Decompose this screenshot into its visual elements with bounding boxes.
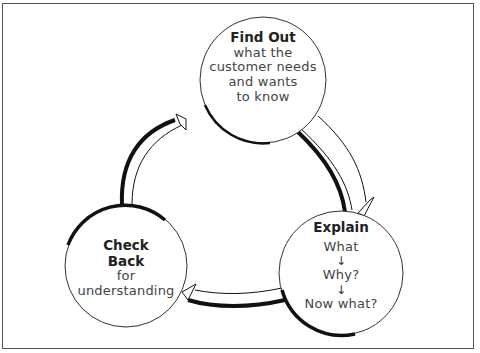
node-text-line: to know [200, 90, 326, 105]
arrow-down-icon: ↓ [285, 283, 397, 297]
arrow-explain-to-checkback [182, 284, 285, 306]
node-title: Back [70, 254, 182, 270]
node-check-back: Check Back for understanding [70, 238, 182, 299]
node-find-out: Find Out what the customer needs and wan… [200, 30, 326, 105]
node-text-line: understanding [70, 284, 182, 299]
node-title: Find Out [200, 30, 326, 46]
node-text-line: for [70, 269, 182, 284]
node-text-line: what the [200, 46, 326, 61]
step-why: Why? [285, 268, 397, 283]
node-text-line: customer needs [200, 60, 326, 75]
node-title: Check [70, 238, 182, 254]
arrow-checkback-to-findout [122, 114, 186, 205]
node-title: Explain [285, 220, 397, 236]
step-what: What [285, 240, 397, 255]
arrow-down-icon: ↓ [285, 254, 397, 268]
node-explain: Explain What ↓ Why? ↓ Now what? [285, 220, 397, 312]
node-text-line: and wants [200, 75, 326, 90]
step-now-what: Now what? [285, 297, 397, 312]
arrow-findout-to-explain [298, 116, 374, 216]
